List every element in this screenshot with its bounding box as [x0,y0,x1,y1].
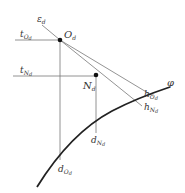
label-h-o: hOd [144,89,158,101]
point-o [58,38,63,43]
label-t-o: tOd [20,29,32,41]
label-t-n: tNd [20,65,32,77]
h-o-line [60,40,153,96]
phi-curve [37,87,170,187]
label-n: Nd [82,80,96,92]
point-n [94,73,99,78]
h-n-line [60,40,142,106]
label-phi: φ [167,77,174,88]
label-o: Od [64,29,76,41]
geometry-diagram: εd Od Nd tOd tNd hOd hNd dOd dNd φ [0,0,185,193]
label-h-n: hNd [144,102,158,114]
epsilon-line [42,25,60,40]
label-epsilon: εd [37,14,46,25]
label-d-o: dOd [58,164,72,176]
label-d-n: dNd [91,135,105,147]
